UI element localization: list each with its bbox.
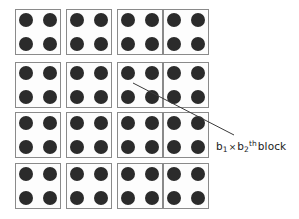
block-dot [70, 13, 84, 27]
block-dot [167, 13, 181, 27]
block-dot [145, 66, 159, 80]
block-dot [43, 191, 57, 205]
block-dot [43, 37, 57, 51]
block-dot [19, 167, 33, 181]
block-dot [145, 13, 159, 27]
block-dot [167, 37, 181, 51]
block-dot [167, 191, 181, 205]
block-dot [43, 90, 57, 104]
block-dot [19, 37, 33, 51]
block-dot [167, 140, 181, 154]
block-dot [121, 90, 135, 104]
block-dot [43, 13, 57, 27]
block-dot [94, 37, 108, 51]
block-dot [191, 116, 205, 130]
block-cell [163, 9, 209, 55]
block-dot [94, 116, 108, 130]
block-cell [15, 163, 61, 209]
block-dot [70, 37, 84, 51]
block-cell [66, 62, 112, 108]
block-cell [15, 9, 61, 55]
label-subscript-1: 1 [223, 145, 228, 154]
block-dot [70, 66, 84, 80]
block-cell [66, 163, 112, 209]
block-dot [145, 37, 159, 51]
block-dot [121, 167, 135, 181]
block-dot [94, 140, 108, 154]
block-cell [15, 62, 61, 108]
block-dot [145, 191, 159, 205]
label-word-block: block [257, 140, 286, 152]
label-b-first: b [216, 140, 223, 152]
block-cell [163, 62, 209, 108]
block-dot [70, 116, 84, 130]
block-dot [43, 66, 57, 80]
block-dot [94, 66, 108, 80]
block-dot [70, 90, 84, 104]
block-dot [121, 191, 135, 205]
block-dot [94, 191, 108, 205]
block-dot [167, 90, 181, 104]
block-cell [163, 112, 209, 158]
block-dot [70, 191, 84, 205]
block-dot [43, 140, 57, 154]
block-dot [191, 13, 205, 27]
block-cell [117, 9, 163, 55]
block-dot [167, 116, 181, 130]
block-dot [19, 116, 33, 130]
block-dot [94, 13, 108, 27]
block-cell [15, 112, 61, 158]
block-dot [145, 116, 159, 130]
block-dot [121, 13, 135, 27]
block-dot [121, 66, 135, 80]
block-dot [191, 66, 205, 80]
block-cell [66, 112, 112, 158]
block-cell [163, 163, 209, 209]
block-cell [66, 9, 112, 55]
block-dot [19, 191, 33, 205]
block-dot [145, 140, 159, 154]
block-dot [191, 191, 205, 205]
block-dot [191, 167, 205, 181]
block-dot [43, 116, 57, 130]
block-dot [94, 167, 108, 181]
block-cell [117, 62, 163, 108]
block-dot [94, 90, 108, 104]
block-dot [121, 37, 135, 51]
block-dot [19, 66, 33, 80]
block-dot [167, 66, 181, 80]
block-cell [117, 112, 163, 158]
block-dot [70, 167, 84, 181]
label-times-symbol: × [228, 142, 238, 152]
block-dot [191, 140, 205, 154]
block-dot [145, 167, 159, 181]
block-dot [121, 116, 135, 130]
block-annotation-label: b1×b2thblock [216, 140, 286, 154]
block-dot [145, 90, 159, 104]
block-dot [121, 140, 135, 154]
block-dot [19, 90, 33, 104]
block-dot [70, 140, 84, 154]
block-dot [191, 37, 205, 51]
block-grid [0, 0, 299, 219]
block-dot [167, 167, 181, 181]
block-dot [43, 167, 57, 181]
block-dot [19, 13, 33, 27]
block-cell [117, 163, 163, 209]
block-dot [19, 140, 33, 154]
block-grid-figure: b1×b2thblock [0, 0, 299, 219]
label-superscript-th: th [249, 139, 257, 148]
block-dot [191, 90, 205, 104]
